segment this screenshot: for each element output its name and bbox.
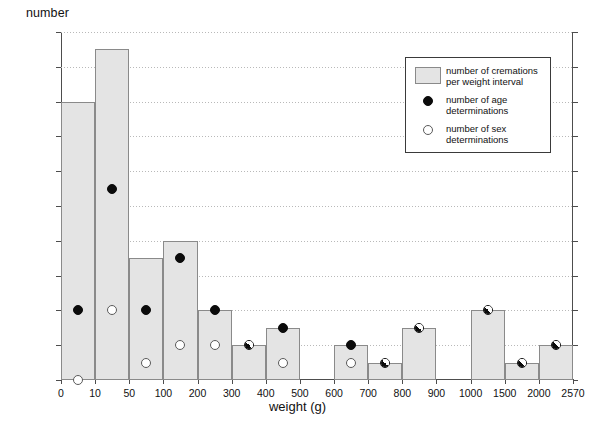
legend-label-age-line1: number of age (446, 94, 508, 105)
x-tick-label: 900 (428, 387, 446, 399)
x-tick-mark (436, 379, 437, 384)
y-tick-mark (56, 67, 61, 68)
legend-item-age: number of age determinations (413, 94, 542, 116)
x-tick-label: 700 (359, 387, 377, 399)
marker-age-and-sex (414, 323, 424, 333)
marker-age-determination (107, 184, 117, 194)
figure-histogram-cremation-weights: number 02468101214161820 010501002003004… (0, 0, 595, 428)
x-tick-label: 0 (58, 387, 64, 399)
x-tick-label: 1500 (493, 387, 516, 399)
legend-swatch-age-dot (413, 94, 443, 106)
bar (471, 310, 505, 380)
legend-swatch-bar (413, 65, 443, 84)
marker-age-determination (73, 305, 83, 315)
legend-label-age-line2: determinations (446, 105, 508, 116)
marker-age-and-sex (380, 358, 390, 368)
marker-age-and-sex (551, 340, 561, 350)
y-tick-mark-right (573, 345, 578, 346)
x-tick-label: 500 (291, 387, 309, 399)
y-tick-mark-right (573, 241, 578, 242)
x-tick-label: 800 (394, 387, 412, 399)
cropped-caption-sliver (8, 418, 568, 426)
chart-legend: number of cremations per weight interval… (405, 57, 551, 153)
x-axis-title: weight (g) (0, 399, 595, 414)
x-tick-label: 50 (123, 387, 135, 399)
marker-age-determination (141, 305, 151, 315)
marker-sex-determination (346, 358, 356, 368)
bar (95, 49, 129, 380)
y-tick-mark-right (573, 206, 578, 207)
marker-sex-determination (107, 305, 117, 315)
marker-age-determination (346, 340, 356, 350)
gridline (61, 32, 573, 33)
x-tick-label: 2570 (561, 387, 584, 399)
bar (539, 345, 573, 380)
x-tick-label: 300 (223, 387, 241, 399)
y-tick-mark-right (573, 102, 578, 103)
marker-sex-determination (73, 375, 83, 385)
x-tick-label: 400 (257, 387, 275, 399)
x-tick-label: 10 (89, 387, 101, 399)
gridline (61, 206, 573, 207)
legend-swatch-sex-dot (413, 123, 443, 135)
gridline (61, 171, 573, 172)
legend-label-sex-line1: number of sex (446, 123, 508, 134)
marker-age-determination (175, 253, 185, 263)
x-tick-mark (573, 379, 574, 384)
legend-label-sex: number of sex determinations (443, 123, 508, 145)
x-tick-label: 600 (325, 387, 343, 399)
marker-age-and-sex (517, 358, 527, 368)
bar (61, 102, 95, 380)
bar (266, 328, 300, 380)
legend-item-cremations: number of cremations per weight interval (413, 65, 542, 87)
marker-age-and-sex (483, 305, 493, 315)
y-tick-mark (56, 32, 61, 33)
legend-label-cremations: number of cremations per weight interval (443, 65, 538, 87)
y-tick-mark-right (573, 32, 578, 33)
y-tick-mark-right (573, 310, 578, 311)
y-tick-mark-right (573, 171, 578, 172)
gridline (61, 241, 573, 242)
bar (402, 328, 436, 380)
marker-sex-determination (141, 358, 151, 368)
y-axis-title: number (26, 6, 69, 20)
y-tick-mark-right (573, 67, 578, 68)
y-tick-mark-right (573, 136, 578, 137)
marker-sex-determination (278, 358, 288, 368)
legend-label-cremations-line2: per weight interval (446, 76, 538, 87)
legend-label-sex-line2: determinations (446, 134, 508, 145)
x-tick-mark (300, 379, 301, 384)
marker-sex-determination (210, 340, 220, 350)
x-tick-label: 200 (189, 387, 207, 399)
x-tick-label: 2000 (527, 387, 550, 399)
x-tick-label: 100 (155, 387, 173, 399)
x-tick-label: 1000 (459, 387, 482, 399)
y-tick-mark-right (573, 276, 578, 277)
legend-label-age: number of age determinations (443, 94, 508, 116)
marker-sex-determination (175, 340, 185, 350)
marker-age-determination (210, 305, 220, 315)
legend-label-cremations-line1: number of cremations (446, 65, 538, 76)
legend-item-sex: number of sex determinations (413, 123, 542, 145)
bar (232, 345, 266, 380)
marker-age-and-sex (244, 340, 254, 350)
marker-age-determination (278, 323, 288, 333)
